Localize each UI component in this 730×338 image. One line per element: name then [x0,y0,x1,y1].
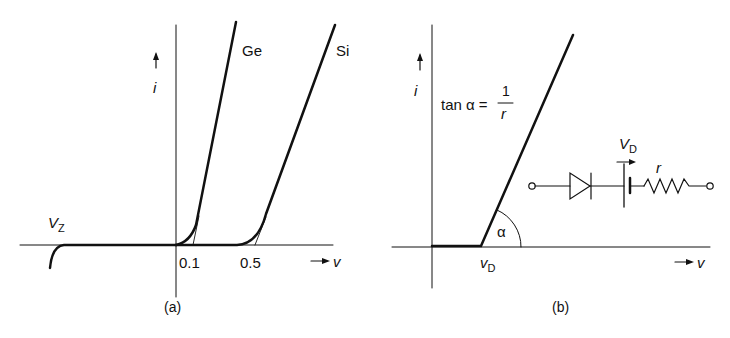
terminal-right-icon [707,183,713,189]
vz-label: VZ [48,215,65,230]
caption-b: (b) [552,300,569,314]
a-i-label: i [153,80,156,95]
resistor-label: r [656,160,661,175]
alpha-label: α [497,224,506,239]
diode-icon [570,173,590,199]
slope-numerator: 1 [502,84,510,98]
circuit-vd-label: VD [619,136,637,151]
tick-0-1: 0.1 [179,255,200,270]
a-v-label: v [333,254,341,269]
caption-a: (a) [164,300,181,314]
vd-knee-label: vD [480,255,495,270]
si-label: Si [336,43,349,58]
model-line [432,35,573,246]
a-reverse-curve [50,245,176,268]
b-i-label: i [414,83,417,98]
ge-curve [176,22,236,245]
resistor-icon [644,179,706,193]
slope-equation: tan α = [441,97,488,112]
diagram-canvas [0,0,730,338]
b-v-label: v [697,255,705,270]
tick-0-5: 0.5 [240,255,261,270]
slope-denominator: r [501,106,506,121]
terminal-left-icon [529,183,535,189]
ge-label: Ge [242,43,262,58]
si-tangent [255,217,266,245]
